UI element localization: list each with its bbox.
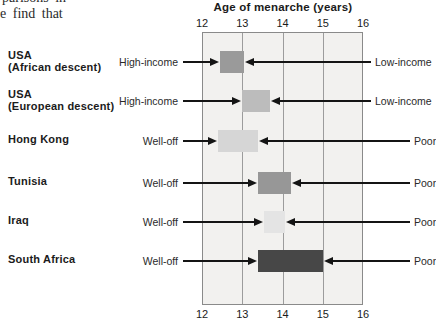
right-arrowhead-icon <box>245 58 254 66</box>
left-income-label: Well-off <box>78 255 178 267</box>
right-arrowhead-icon <box>324 257 333 265</box>
range-box <box>242 90 270 112</box>
right-arrowhead-icon <box>286 218 295 226</box>
right-arrow-line <box>280 100 371 102</box>
left-arrowhead-icon <box>208 137 217 145</box>
menarche-figure: parisons in e find that Age of menarche … <box>0 0 436 326</box>
range-box <box>220 51 244 73</box>
left-arrow-line <box>183 100 233 102</box>
right-income-label: Low-income <box>375 56 432 68</box>
range-box <box>218 130 258 152</box>
left-income-label: Well-off <box>78 177 178 189</box>
right-arrow-line <box>268 140 410 142</box>
range-box <box>264 211 284 233</box>
gridline <box>242 33 243 304</box>
right-arrowhead-icon <box>271 97 280 105</box>
tick-label-bottom: 12 <box>189 308 215 320</box>
right-income-label: Low-income <box>375 95 432 107</box>
range-box <box>258 250 322 272</box>
left-arrow-line <box>183 61 211 63</box>
tick-label-top: 16 <box>350 17 376 29</box>
left-income-label: High-income <box>78 95 178 107</box>
tick-label-bottom: 15 <box>310 308 336 320</box>
right-arrowhead-icon <box>292 179 301 187</box>
page-text-fragment: parisons in e find that <box>0 0 120 26</box>
tick-label-top: 15 <box>310 17 336 29</box>
left-income-label: Well-off <box>78 216 178 228</box>
left-income-label: Well-off <box>78 135 178 147</box>
right-income-label: Poor <box>414 255 436 267</box>
left-arrow-line <box>183 182 249 184</box>
range-box <box>258 172 290 194</box>
tick-label-bottom: 16 <box>350 308 376 320</box>
left-income-label: High-income <box>78 56 178 68</box>
tick-label-bottom: 14 <box>270 308 296 320</box>
right-income-label: Poor <box>414 135 436 147</box>
left-arrowhead-icon <box>232 97 241 105</box>
left-arrowhead-icon <box>248 179 257 187</box>
left-arrow-line <box>183 140 209 142</box>
right-income-label: Poor <box>414 177 436 189</box>
tick-label-bottom: 13 <box>229 308 255 320</box>
left-arrowhead-icon <box>210 58 219 66</box>
left-arrowhead-icon <box>248 257 257 265</box>
right-income-label: Poor <box>414 216 436 228</box>
tick-label-top: 12 <box>189 17 215 29</box>
left-arrow-line <box>183 260 249 262</box>
right-arrow-line <box>301 182 410 184</box>
right-arrow-line <box>295 221 410 223</box>
visible-text-line: e find that <box>0 6 63 22</box>
chart-title: Age of menarche (years) <box>183 1 383 13</box>
right-arrow-line <box>333 260 410 262</box>
right-arrowhead-icon <box>259 137 268 145</box>
tick-label-top: 13 <box>229 17 255 29</box>
right-arrow-line <box>254 61 371 63</box>
left-arrow-line <box>183 221 255 223</box>
tick-label-top: 14 <box>270 17 296 29</box>
left-arrowhead-icon <box>254 218 263 226</box>
